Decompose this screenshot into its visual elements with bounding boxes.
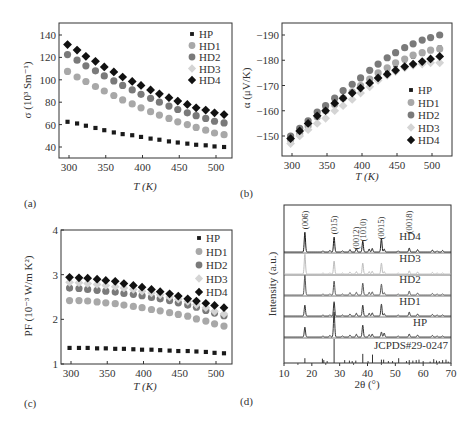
- curve-label-hd3: HD3: [399, 252, 421, 264]
- x-tick-label: 70: [446, 367, 458, 379]
- data-point-hd2: [427, 34, 434, 41]
- data-point-hp: [149, 137, 153, 141]
- data-point-hd4: [192, 103, 201, 112]
- peak-label: (015): [329, 216, 339, 235]
- data-point-hp: [167, 139, 171, 143]
- data-point-hd4: [146, 86, 155, 95]
- data-point-hp: [222, 351, 226, 355]
- data-point-hd4: [65, 273, 74, 282]
- data-point-hd1: [157, 307, 164, 314]
- y-tick-label: −170: [256, 80, 279, 92]
- y-tick-label: 100: [40, 74, 57, 86]
- legend-marker-hd3: [195, 274, 203, 282]
- x-tick-label: 400: [134, 161, 151, 173]
- x-tick-label: 300: [61, 161, 78, 173]
- panel-letter: (d): [240, 395, 253, 408]
- data-point-hd4: [210, 108, 219, 117]
- data-point-hd1: [401, 55, 408, 62]
- data-point-hp: [139, 135, 143, 139]
- data-point-hp: [77, 346, 81, 350]
- peak-label: (006): [300, 211, 310, 230]
- data-point-hd1: [175, 311, 182, 318]
- legend: HPHD1HD2HD3HD4: [188, 28, 221, 86]
- panel-letter: (a): [24, 197, 37, 210]
- data-point-hd1: [66, 297, 73, 304]
- x-tick-label: 10: [279, 367, 291, 379]
- data-point-hd2: [384, 54, 391, 61]
- peak-label: (1010): [358, 219, 368, 242]
- legend-label-hp: HP: [206, 232, 220, 244]
- data-point-hd1: [120, 301, 127, 308]
- data-point-hd2: [410, 40, 417, 47]
- data-point-hd1: [147, 108, 154, 115]
- data-point-hd1: [392, 59, 399, 66]
- panel-letter: (c): [24, 397, 37, 410]
- x-tick-label: 450: [172, 367, 189, 379]
- data-point-hd4: [435, 52, 444, 61]
- legend-marker-hd4: [188, 76, 196, 84]
- legend-label-hd3: HD3: [418, 122, 440, 134]
- data-point-hd2: [174, 106, 181, 113]
- data-point-hp: [140, 348, 144, 352]
- figure: 300350400450500 406080100120140 HPHD1HD2…: [0, 0, 474, 425]
- data-point-hp: [95, 346, 99, 350]
- legend-label-hd1: HD1: [206, 246, 227, 258]
- data-point-hd2: [340, 87, 347, 94]
- y-tick-label: 2: [53, 313, 59, 325]
- xrd-curve-hd3: [284, 254, 451, 274]
- data-point-hd1: [211, 129, 218, 136]
- x-tick-label: 50: [390, 367, 402, 379]
- data-point-hd4: [109, 68, 118, 77]
- reference-label: JCPDS#29-0247: [374, 339, 448, 351]
- y-tick-label: 120: [40, 51, 57, 63]
- data-point-hp: [185, 142, 189, 146]
- data-point-hp: [176, 140, 180, 144]
- data-point-hd2: [349, 81, 356, 88]
- data-point-hp: [157, 138, 161, 142]
- data-point-hp: [186, 349, 190, 353]
- panel-a-sigma: 300350400450500 406080100120140 HPHD1HD2…: [21, 23, 232, 210]
- legend-label-hd3: HD3: [206, 273, 228, 285]
- legend-marker-hd3: [407, 123, 415, 131]
- data-point-hd2: [129, 86, 136, 93]
- y-tick-label: 4: [53, 224, 59, 236]
- data-point-hd2: [211, 118, 218, 125]
- data-point-hd4: [210, 301, 219, 310]
- data-point-hd1: [193, 124, 200, 131]
- data-point-hd4: [91, 57, 100, 66]
- data-point-hd1: [92, 83, 99, 90]
- legend-marker-hd2: [408, 112, 415, 119]
- x-tick-label: 300: [63, 367, 80, 379]
- data-point-hd1: [148, 306, 155, 313]
- panel-c-power-factor: 300350400450500 1234 HPHD1HD2HD3HD4 T (K…: [22, 224, 232, 410]
- data-point-hd4: [220, 303, 229, 312]
- legend-marker-hp: [190, 32, 194, 36]
- x-tick-label: 20: [306, 367, 318, 379]
- data-point-hd2: [357, 74, 364, 81]
- x-axis-label: T (K): [355, 170, 379, 183]
- data-point-hp: [168, 349, 172, 353]
- y-axis-label: Intensity (a.u.): [266, 251, 279, 316]
- y-axis-label: α (μV/K): [240, 67, 253, 108]
- data-point-hd1: [137, 104, 144, 111]
- legend-marker-hd2: [189, 54, 196, 61]
- data-point-hd2: [436, 31, 443, 38]
- panel-letter: (b): [240, 187, 253, 200]
- data-point-hp: [67, 346, 71, 350]
- data-point-hd4: [391, 66, 400, 75]
- data-point-hd1: [165, 115, 172, 122]
- data-point-hd2: [82, 62, 89, 69]
- data-point-hd1: [82, 78, 89, 85]
- xrd-curve-hd1: [284, 302, 451, 316]
- legend-marker-hd1: [189, 42, 196, 49]
- data-point-hd2: [375, 60, 382, 67]
- data-point-hd1: [174, 118, 181, 125]
- data-point-hd4: [63, 40, 72, 49]
- data-point-hd1: [94, 298, 101, 305]
- data-point-hd1: [184, 121, 191, 128]
- data-point-hd2: [147, 95, 154, 102]
- y-axis-label: σ (10³ Sm⁻¹): [21, 61, 34, 118]
- data-point-hd2: [419, 36, 426, 43]
- data-point-hd1: [419, 49, 426, 56]
- curve-label-hd1: HD1: [399, 295, 420, 307]
